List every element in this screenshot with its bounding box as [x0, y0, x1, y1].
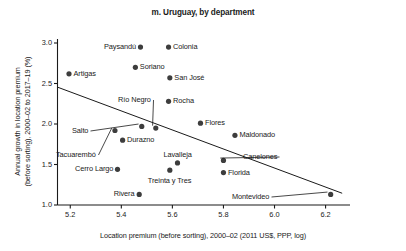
x-tick-label: 6.2 — [314, 210, 338, 219]
data-point[interactable] — [167, 168, 172, 173]
data-point[interactable] — [221, 158, 226, 163]
point-label: Río Negro — [118, 95, 151, 104]
x-tick-label: 5.4 — [109, 210, 133, 219]
trend-line — [58, 87, 343, 193]
point-label: Treinta y Tres — [148, 176, 192, 185]
point-label: Tacuarembó — [56, 150, 96, 159]
data-point[interactable] — [133, 65, 138, 70]
data-point[interactable] — [221, 170, 226, 175]
data-point[interactable] — [175, 160, 180, 165]
point-label: Durazno — [127, 135, 154, 144]
x-tick-label: 5.8 — [211, 210, 235, 219]
x-tick-label: 6.0 — [263, 210, 287, 219]
point-label: Florida — [228, 168, 250, 177]
point-label: Rivera — [114, 189, 135, 198]
point-label: Flores — [205, 118, 225, 127]
data-point[interactable] — [166, 99, 171, 104]
point-label: Soriano — [140, 62, 165, 71]
chart-figure: m. Uruguay, by department Annual growth … — [0, 0, 406, 251]
data-point[interactable] — [167, 75, 172, 80]
y-tick-label: 2.0 — [32, 119, 52, 128]
leader-line — [99, 128, 112, 155]
data-point[interactable] — [198, 121, 203, 126]
data-point[interactable] — [120, 138, 125, 143]
data-point[interactable] — [66, 71, 71, 76]
y-tick-label: 1.0 — [32, 200, 52, 209]
data-point[interactable] — [166, 44, 171, 49]
point-label: San José — [174, 73, 204, 82]
y-tick-label: 1.5 — [32, 160, 52, 169]
data-point[interactable] — [139, 124, 144, 129]
point-label: Rocha — [173, 96, 194, 105]
point-label: Canelones — [243, 152, 277, 161]
point-label: Montevideo — [232, 192, 269, 201]
point-label: Lavalleja — [163, 150, 191, 159]
point-label: Paysandú — [104, 42, 136, 51]
point-label: Cerro Largo — [75, 164, 113, 173]
y-tick-label: 2.5 — [32, 79, 52, 88]
leader-line — [272, 192, 328, 197]
leader-line — [153, 100, 154, 126]
data-point[interactable] — [112, 128, 117, 133]
y-tick-label: 3.0 — [32, 38, 52, 47]
data-point[interactable] — [328, 192, 333, 197]
point-label: Artigas — [73, 69, 95, 78]
point-label: Maldonado — [239, 130, 275, 139]
data-point[interactable] — [138, 44, 143, 49]
x-tick-label: 5.6 — [160, 210, 184, 219]
data-point[interactable] — [115, 167, 120, 172]
point-label: Salto — [72, 126, 88, 135]
point-label: Colonia — [173, 42, 197, 51]
x-tick-label: 5.2 — [58, 210, 82, 219]
data-point[interactable] — [137, 192, 142, 197]
data-point[interactable] — [153, 125, 158, 130]
data-point[interactable] — [232, 133, 237, 138]
